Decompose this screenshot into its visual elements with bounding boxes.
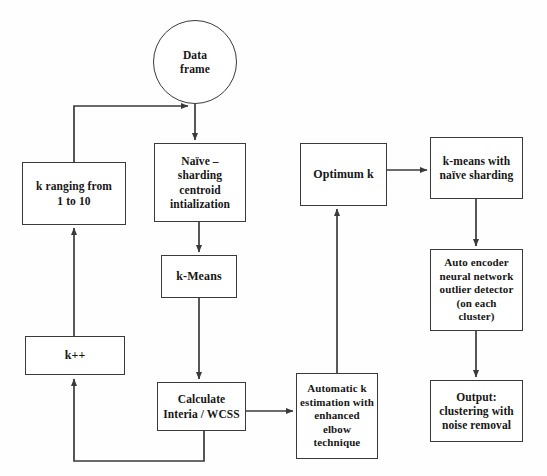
flowchart-canvas: Data frame k ranging from 1 to 10 k++ Na…	[0, 0, 547, 476]
node-k-increment[interactable]: k++	[25, 336, 125, 375]
node-k-increment-label: k++	[65, 348, 86, 363]
node-kmeans-sharding-label: k-means with naïve sharding	[440, 154, 514, 182]
node-naive-sharding[interactable]: Naïve – sharding centroid intialization	[154, 143, 246, 222]
node-auto-encoder-label: Auto encoder neural network outlier dete…	[440, 256, 514, 323]
node-automatic-k[interactable]: Automatic k estimation with enhanced elb…	[296, 373, 378, 459]
node-output-label: Output: clustering with noise removal	[439, 390, 514, 432]
node-k-range[interactable]: k ranging from 1 to 10	[22, 162, 126, 225]
node-output[interactable]: Output: clustering with noise removal	[430, 380, 523, 442]
node-calculate-wcss-label: Calculate Interia / WCSS	[163, 392, 240, 420]
node-naive-sharding-label: Naïve – sharding centroid intialization	[170, 154, 230, 210]
node-optimum-k-label: Optimum k	[313, 167, 374, 182]
node-kmeans-sharding[interactable]: k-means with naïve sharding	[430, 137, 523, 199]
node-data-frame-label: Data frame	[180, 48, 210, 76]
node-auto-encoder[interactable]: Auto encoder neural network outlier dete…	[430, 249, 523, 331]
node-k-means-label: k-Means	[176, 269, 221, 284]
node-data-frame[interactable]: Data frame	[153, 20, 237, 104]
node-k-range-label: k ranging from 1 to 10	[36, 179, 112, 207]
node-k-means[interactable]: k-Means	[161, 255, 237, 298]
node-automatic-k-label: Automatic k estimation with enhanced elb…	[300, 382, 374, 449]
node-calculate-wcss[interactable]: Calculate Interia / WCSS	[157, 382, 246, 431]
node-optimum-k[interactable]: Optimum k	[300, 143, 387, 206]
